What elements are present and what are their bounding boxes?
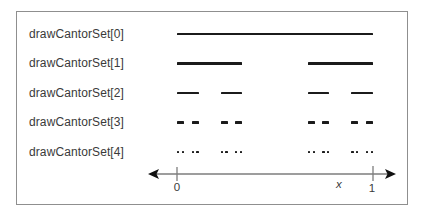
cantor-segment [308,92,330,94]
cantor-segment [351,151,353,153]
axis-tick-label-0: 0 [169,181,185,193]
cantor-segment [351,92,373,94]
cantor-segment [322,121,329,123]
axis-variable-label: x [336,178,342,190]
cantor-segment [235,121,242,123]
row-label: drawCantorSet[0] [29,27,124,41]
cantor-segment [177,121,184,123]
cantor-segment [308,62,373,64]
cantor-set-figure: drawCantorSet[0]drawCantorSet[1]drawCant… [0,0,423,218]
row-label: drawCantorSet[4] [29,145,124,159]
cantor-segment [308,151,310,153]
cantor-segment [221,92,243,94]
cantor-segment [313,151,315,153]
cantor-segment [351,121,358,123]
cantor-segment [366,121,373,123]
cantor-segment [177,92,199,94]
cantor-segment [308,121,315,123]
cantor-segment [192,121,199,123]
cantor-segment [177,33,373,35]
cantor-segment [371,151,373,153]
cantor-segment [221,151,223,153]
axis-tick-label-1: 1 [364,182,380,194]
row-label: drawCantorSet[2] [29,86,124,100]
cantor-segment [322,151,324,153]
cantor-segment [192,151,194,153]
cantor-segment [221,121,228,123]
cantor-segment [366,151,368,153]
cantor-segment [225,151,227,153]
row-label: drawCantorSet[3] [29,115,124,129]
cantor-segment [196,151,198,153]
row-label: drawCantorSet[1] [29,56,124,70]
cantor-segment [177,62,242,64]
